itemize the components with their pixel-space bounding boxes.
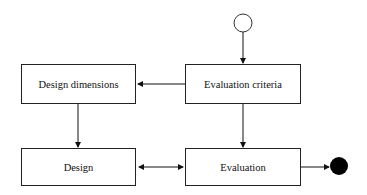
node-design-dimensions: Design dimensions: [21, 64, 136, 104]
node-label: Evaluation: [220, 162, 266, 173]
start-node-icon: [234, 14, 252, 32]
node-design: Design: [21, 148, 136, 186]
node-label: Design dimensions: [38, 79, 118, 90]
node-evaluation-criteria: Evaluation criteria: [185, 64, 301, 104]
end-node-icon: [330, 157, 348, 175]
node-label: Design: [64, 162, 94, 173]
node-evaluation: Evaluation: [185, 148, 301, 186]
node-label: Evaluation criteria: [204, 79, 282, 90]
